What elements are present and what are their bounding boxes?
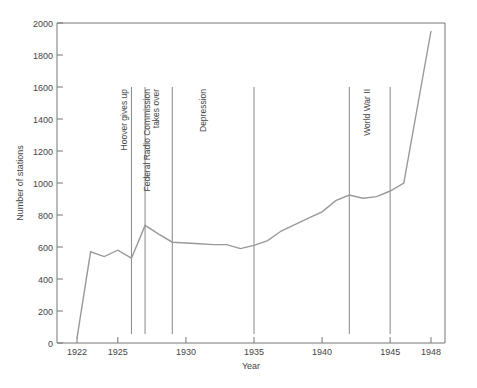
y-tick-label: 400 xyxy=(38,275,53,285)
stations-line-chart: 0200400600800100012001400160018002000 19… xyxy=(0,0,477,388)
event-annotation-label: Depression xyxy=(198,89,208,132)
x-tick-label: 1940 xyxy=(312,347,332,357)
y-tick-label: 800 xyxy=(38,211,53,221)
y-tick-label: 1800 xyxy=(33,51,53,61)
x-tick-label: 1945 xyxy=(380,347,400,357)
x-tick-label: 1948 xyxy=(421,347,441,357)
event-annotation-label: Hoover gives up xyxy=(119,89,129,151)
event-annotation-label: takes over xyxy=(151,89,161,128)
x-tick-label: 1922 xyxy=(67,347,87,357)
y-tick-label: 600 xyxy=(38,243,53,253)
y-tick-label: 200 xyxy=(38,307,53,317)
plot-frame xyxy=(57,23,445,343)
y-tick-label: 1000 xyxy=(33,179,53,189)
event-annotations: Hoover gives upFederal Radio Commissiont… xyxy=(119,87,390,334)
y-tick-label: 2000 xyxy=(33,19,53,29)
y-tick-label: 1200 xyxy=(33,147,53,157)
event-annotation-label: World War II xyxy=(362,89,372,136)
y-axis-label: Number of stations xyxy=(15,145,25,221)
x-axis-label: Year xyxy=(242,361,260,371)
x-tick-label: 1935 xyxy=(244,347,264,357)
x-tick-label: 1925 xyxy=(108,347,128,357)
y-tick-label: 1400 xyxy=(33,115,53,125)
y-tick-label: 0 xyxy=(48,339,53,349)
y-tick-label: 1600 xyxy=(33,83,53,93)
y-axis-ticks: 0200400600800100012001400160018002000 xyxy=(33,19,63,349)
x-tick-label: 1930 xyxy=(176,347,196,357)
x-axis-ticks: 1922192519301935194019451948 xyxy=(67,337,441,357)
